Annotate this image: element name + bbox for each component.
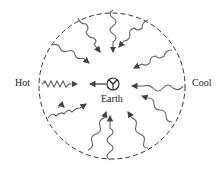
- hot-label: Hot: [15, 77, 30, 88]
- radiation-diagram: [0, 0, 221, 174]
- wavy-arrow-nne: [119, 20, 148, 47]
- wavy-arrow-ne: [134, 50, 172, 68]
- wavy-arrow-nw: [52, 44, 89, 63]
- wavy-arrow-se: [142, 96, 172, 122]
- wavy-arrow-e: [132, 85, 183, 91]
- wavy-arrow-w: [42, 81, 77, 87]
- cool-label: Cool: [192, 77, 211, 88]
- wavy-arrow-n: [110, 10, 116, 52]
- earth-label: Earth: [101, 93, 123, 104]
- earth-symbol: [107, 78, 119, 90]
- wavy-arrow-sw: [48, 104, 86, 118]
- wavy-arrow-ssw: [88, 112, 106, 150]
- wavy-arrow-nnw: [78, 18, 100, 52]
- wavy-arrow-wsw: [58, 106, 64, 108]
- wavy-arrow-s: [107, 116, 113, 160]
- wavy-arrow-sse: [128, 112, 148, 148]
